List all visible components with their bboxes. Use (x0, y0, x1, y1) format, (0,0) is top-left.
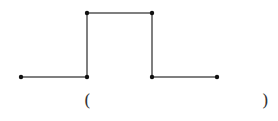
vertex-point (85, 11, 89, 15)
vertex-point (215, 75, 219, 79)
vertex-point (150, 11, 154, 15)
vertex-point (19, 75, 23, 79)
vertex-points (19, 11, 219, 79)
open-parenthesis: ( (84, 92, 91, 109)
step-diagram (0, 0, 278, 121)
close-parenthesis: ) (262, 92, 269, 109)
vertex-point (150, 75, 154, 79)
step-path (21, 13, 217, 77)
vertex-point (85, 75, 89, 79)
